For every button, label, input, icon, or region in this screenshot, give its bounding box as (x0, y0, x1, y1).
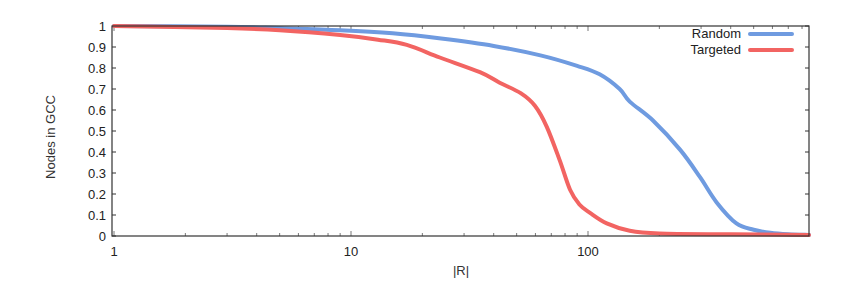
x-tick-label: 10 (344, 244, 358, 259)
series-line-targeted (114, 26, 809, 235)
legend-label-targeted: Targeted (690, 42, 741, 57)
y-tick-label: 0.5 (88, 124, 106, 139)
y-tick-label: 0.1 (88, 208, 106, 223)
y-tick-label: 0 (99, 229, 106, 244)
y-axis-label: Nodes in GCC (43, 95, 58, 179)
series-line-random (114, 26, 809, 235)
y-tick-label: 1 (99, 19, 106, 34)
x-tick-label: 1 (110, 244, 117, 259)
chart: 00.10.20.30.40.50.60.70.80.91 110100 Nod… (0, 0, 850, 298)
x-tick-label: 100 (577, 244, 599, 259)
y-tick-label: 0.4 (88, 145, 106, 160)
y-tick-label: 0.9 (88, 40, 106, 55)
legend-label-random: Random (692, 26, 741, 41)
x-axis-label: |R| (453, 263, 469, 278)
series-layer (114, 26, 809, 235)
y-tick-label: 0.6 (88, 103, 106, 118)
y-tick-label: 0.8 (88, 61, 106, 76)
y-tick-label: 0.2 (88, 187, 106, 202)
y-tick-label: 0.3 (88, 166, 106, 181)
x-axis-ticks: 110100 (110, 26, 802, 259)
legend: Random Targeted (690, 26, 792, 57)
plot-frame (112, 26, 809, 236)
y-tick-label: 0.7 (88, 82, 106, 97)
